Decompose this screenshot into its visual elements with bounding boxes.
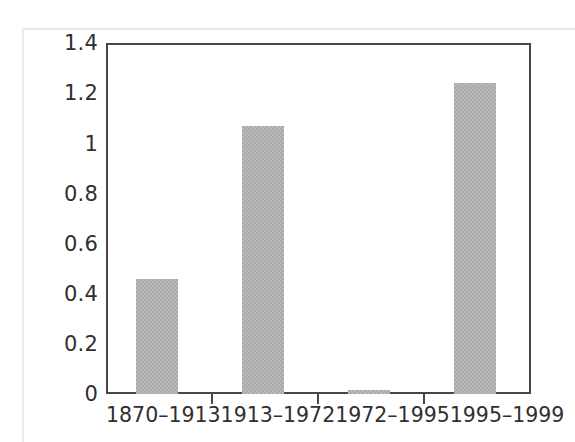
y-tick-label-0.8: 0.8 xyxy=(0,182,98,206)
bar-1972-1995 xyxy=(348,390,390,394)
x-tick-label-1913-1972: 1913–1972 xyxy=(221,400,336,434)
bars-layer xyxy=(106,43,531,394)
page-border-top xyxy=(22,28,575,30)
bar-1870-1913 xyxy=(136,279,178,394)
y-tick-label-0: 0 xyxy=(0,382,98,406)
y-tick-label-1: 1 xyxy=(0,132,98,156)
x-tick-label-1972-1995: 1972–1995 xyxy=(335,400,450,434)
bar-1995-1999 xyxy=(454,83,496,394)
bar-1913-1972 xyxy=(242,126,284,394)
y-tick-label-1.2: 1.2 xyxy=(0,81,98,105)
y-tick-label-0.6: 0.6 xyxy=(0,232,98,256)
y-axis-labels: 1.4 1.2 1 0.8 0.6 0.4 0.2 0 xyxy=(0,0,98,442)
bar-chart-figure: 1.4 1.2 1 0.8 0.6 0.4 0.2 0 1870–1913 19… xyxy=(0,0,575,442)
y-tick-label-0.4: 0.4 xyxy=(0,282,98,306)
x-tick-label-1870-1913: 1870–1913 xyxy=(106,400,221,434)
x-tick-label-1995-1999: 1995–1999 xyxy=(450,400,565,434)
y-tick-label-1.4: 1.4 xyxy=(0,31,98,55)
x-axis-labels: 1870–1913 1913–1972 1972–1995 1995–1999 xyxy=(106,400,531,434)
y-tick-label-0.2: 0.2 xyxy=(0,332,98,356)
